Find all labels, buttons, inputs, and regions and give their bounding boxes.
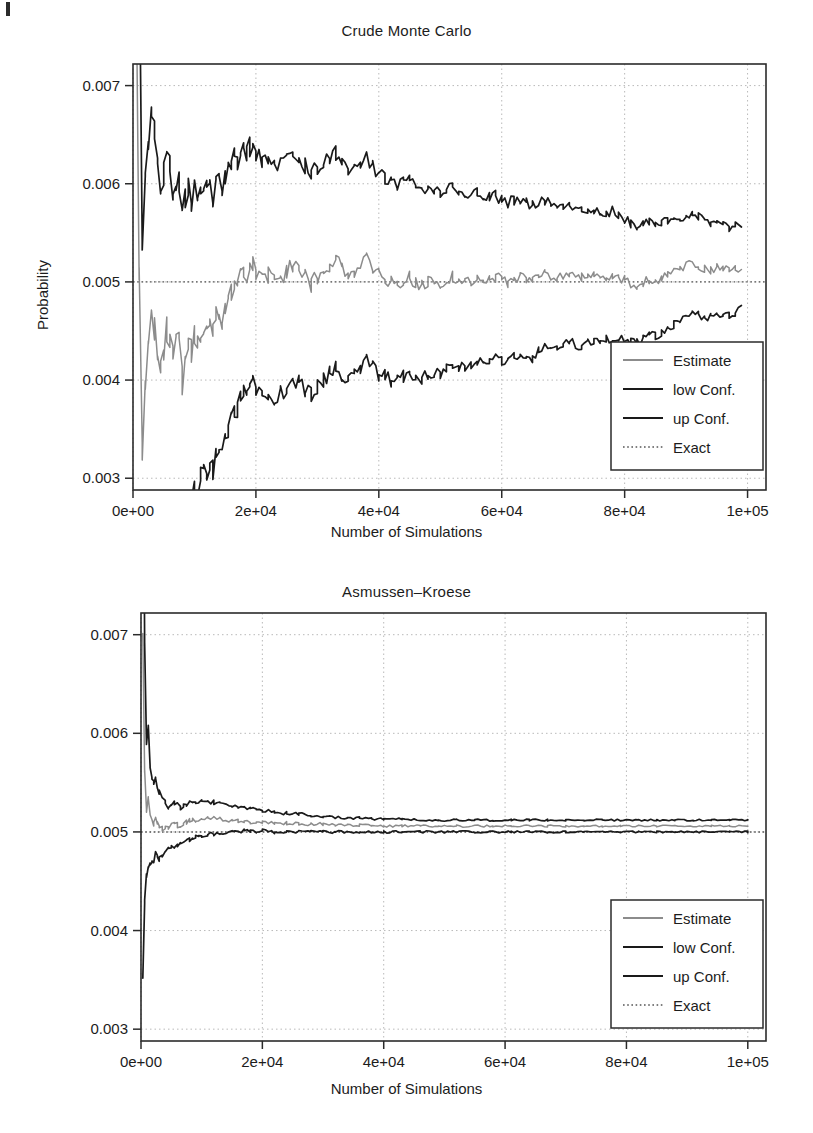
chart-canvas-asmussen-kroese: 0.0030.0040.0050.0060.0070e+002e+044e+04…	[0, 566, 813, 1133]
x-axis-label: Number of Simulations	[0, 523, 813, 540]
legend-label-up-conf: up Conf.	[673, 410, 730, 427]
y-tick-label: 0.003	[90, 1020, 128, 1037]
x-tick-label: 6e+04	[481, 502, 523, 519]
legend-label-low-conf: low Conf.	[673, 381, 736, 398]
chart-panel-asmussen-kroese: Asmussen–Kroese Probability 0.0030.0040.…	[0, 566, 813, 1133]
x-tick-label: 8e+04	[605, 1053, 647, 1070]
x-tick-label: 4e+04	[358, 502, 400, 519]
x-tick-label: 2e+04	[235, 502, 277, 519]
y-tick-label: 0.005	[90, 823, 128, 840]
chart-legend: Estimatelow Conf.up Conf.Exact	[611, 900, 763, 1028]
x-tick-label: 8e+04	[604, 502, 646, 519]
y-tick-label: 0.005	[82, 273, 120, 290]
x-tick-label: 0e+00	[120, 1053, 162, 1070]
legend-label-exact: Exact	[673, 997, 711, 1014]
x-tick-label: 6e+04	[484, 1053, 526, 1070]
y-tick-label: 0.006	[82, 175, 120, 192]
chart-panel-crude-monte-carlo: Crude Monte Carlo Probability 0.0030.004…	[0, 0, 813, 566]
legend-label-low-conf: low Conf.	[673, 939, 736, 956]
chart-legend: Estimatelow Conf.up Conf.Exact	[611, 342, 763, 470]
series-group	[136, 0, 741, 662]
y-tick-label: 0.004	[90, 922, 128, 939]
legend-label-estimate: Estimate	[673, 352, 731, 369]
x-tick-label: 1e+05	[726, 502, 768, 519]
legend-label-estimate: Estimate	[673, 910, 731, 927]
series-line-estimate	[143, 633, 748, 831]
legend-label-up-conf: up Conf.	[673, 968, 730, 985]
figure-page: Crude Monte Carlo Probability 0.0030.004…	[0, 0, 813, 1133]
x-tick-label: 2e+04	[241, 1053, 283, 1070]
y-tick-label: 0.007	[90, 626, 128, 643]
x-tick-label: 4e+04	[363, 1053, 405, 1070]
x-tick-label: 1e+05	[727, 1053, 769, 1070]
y-tick-label: 0.004	[82, 371, 120, 388]
x-tick-label: 0e+00	[112, 502, 154, 519]
series-line-up-conf	[136, 0, 741, 250]
legend-label-exact: Exact	[673, 439, 711, 456]
y-tick-label: 0.007	[82, 77, 120, 94]
x-axis-label: Number of Simulations	[0, 1080, 813, 1097]
y-tick-label: 0.003	[82, 469, 120, 486]
y-tick-label: 0.006	[90, 724, 128, 741]
chart-canvas-crude: 0.0030.0040.0050.0060.0070e+002e+044e+04…	[0, 0, 813, 566]
